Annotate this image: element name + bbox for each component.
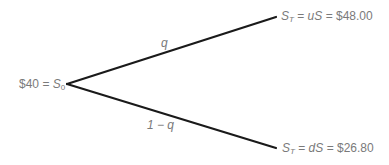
binomial-tree-diagram: $40 = S0 ST = uS = $48.00 ST = dS = $26.… (0, 0, 389, 165)
equals-sign: = (297, 9, 304, 23)
equals-sign: = (327, 141, 334, 155)
up-probability: q (161, 36, 168, 50)
up-terminal-subscript: T (289, 15, 294, 24)
down-terminal-subscript: T (290, 147, 295, 156)
up-terminal-symbol: S (281, 9, 289, 23)
up-branch-line (67, 17, 276, 84)
up-terminal-label: ST = uS = $48.00 (281, 9, 373, 27)
root-subscript: 0 (61, 83, 65, 92)
root-symbol: S (53, 77, 61, 91)
root-node-label: $40 = S0 (19, 77, 65, 95)
down-probability-label: 1 − q (147, 118, 174, 132)
down-branch-line (67, 84, 276, 148)
up-probability-label: q (161, 36, 168, 50)
down-probability: 1 − q (147, 118, 174, 132)
down-terminal-label: ST = dS = $26.80 (282, 141, 374, 159)
down-terminal-symbol: S (282, 141, 290, 155)
up-terminal-value: $48.00 (336, 9, 373, 23)
equals-sign: = (42, 77, 49, 91)
equals-sign: = (326, 9, 333, 23)
equals-sign: = (298, 141, 305, 155)
down-terminal-value: $26.80 (337, 141, 374, 155)
up-factor-expr: uS (308, 9, 323, 23)
root-price: $40 (19, 77, 39, 91)
down-factor-expr: dS (309, 141, 324, 155)
